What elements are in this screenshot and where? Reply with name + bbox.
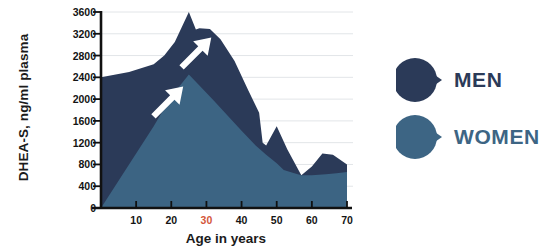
x-tick-label: 10	[121, 214, 151, 226]
chart-legend: MEN WOMEN	[396, 50, 554, 180]
chart-figure: DHEA-S, ng/ml plasma 0400800120016002000…	[0, 0, 554, 251]
legend-marker-men-icon	[396, 57, 444, 103]
x-tick-label: 70	[332, 214, 362, 226]
x-axis-title: Age in years	[101, 231, 351, 246]
legend-marker-women-icon	[396, 114, 444, 160]
x-tick-label: 60	[297, 214, 327, 226]
x-tick-label: 40	[227, 214, 257, 226]
x-tick-label: 50	[262, 214, 292, 226]
legend-item-women: WOMEN	[396, 112, 540, 162]
legend-item-men: MEN	[396, 55, 502, 105]
x-tick-label: 30	[191, 214, 221, 226]
x-tick-label: 20	[156, 214, 186, 226]
legend-label-men: MEN	[454, 68, 502, 92]
legend-label-women: WOMEN	[454, 125, 540, 149]
